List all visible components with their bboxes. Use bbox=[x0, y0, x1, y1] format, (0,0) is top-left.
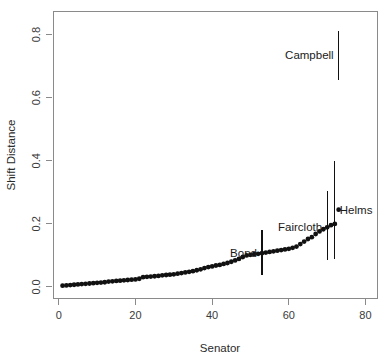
annotation-helms: Helms bbox=[340, 204, 373, 216]
chart-figure: 020406080 0.00.20.40.60.8 BondFairclothH… bbox=[0, 0, 386, 359]
error-bars bbox=[262, 31, 339, 275]
annotation-bond: Bond bbox=[230, 247, 257, 259]
y-tick-label: 0.8 bbox=[30, 27, 42, 42]
scatter-plot-canvas: 020406080 0.00.20.40.60.8 BondFairclothH… bbox=[0, 0, 386, 359]
y-tick-label: 0.4 bbox=[30, 153, 42, 168]
x-axis: 020406080 bbox=[56, 299, 372, 321]
annotation-campbell: Campbell bbox=[285, 49, 334, 61]
x-tick-label: 80 bbox=[359, 309, 371, 321]
y-tick-label: 0.2 bbox=[30, 216, 42, 231]
x-tick-label: 40 bbox=[206, 309, 218, 321]
y-tick-label: 0.0 bbox=[30, 279, 42, 294]
x-axis-title: Senator bbox=[200, 342, 240, 354]
data-point bbox=[332, 221, 337, 226]
point-annotations: BondFairclothHelmsCampbell bbox=[230, 49, 373, 259]
x-tick-label: 20 bbox=[129, 309, 141, 321]
data-points bbox=[60, 207, 341, 288]
y-tick-label: 0.6 bbox=[30, 90, 42, 105]
y-axis-title: Shift Distance bbox=[5, 120, 17, 191]
x-tick-label: 60 bbox=[283, 309, 295, 321]
data-point bbox=[309, 235, 314, 240]
y-axis: 0.00.20.40.60.8 bbox=[30, 27, 52, 295]
annotation-faircloth: Faircloth bbox=[278, 221, 322, 233]
x-tick-label: 0 bbox=[56, 309, 62, 321]
